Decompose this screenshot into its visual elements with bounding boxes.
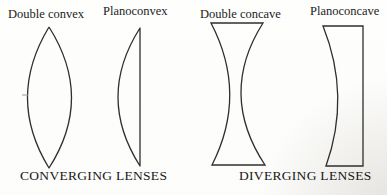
lens-types-diagram: Double convex Planoconvex Double concave… (0, 0, 387, 195)
planoconcave-lens-shape (323, 26, 363, 166)
caption-diverging-lenses: DIVERGING LENSES (239, 168, 372, 184)
planoconvex-lens-shape (118, 28, 140, 166)
label-double-convex: Double convex (8, 8, 84, 22)
double-concave-lens-shape (211, 23, 265, 165)
label-planoconcave: Planoconcave (310, 5, 379, 19)
label-double-concave: Double concave (200, 8, 281, 22)
double-convex-lens-shape (28, 27, 72, 168)
caption-converging-lenses: CONVERGING LENSES (20, 168, 167, 184)
lens-shapes-canvas (0, 0, 387, 195)
label-planoconvex: Planoconvex (103, 5, 168, 19)
